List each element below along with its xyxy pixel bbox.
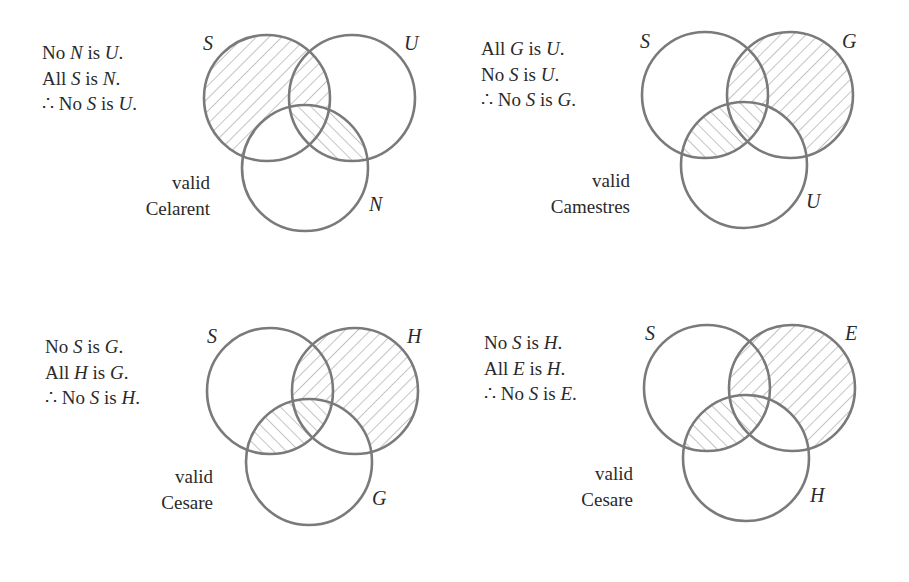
label-h: H: [406, 325, 423, 347]
label-s: S: [640, 30, 650, 52]
label-n: N: [368, 193, 384, 215]
label-e: E: [844, 322, 857, 344]
label-g: G: [372, 487, 387, 509]
label-s: S: [203, 32, 213, 54]
venn-diagrams: S U N S G U S H G: [0, 0, 909, 582]
venn-cesare-2: S E H: [644, 322, 857, 521]
label-h: H: [809, 484, 826, 506]
label-s: S: [207, 325, 217, 347]
label-u: U: [806, 190, 822, 212]
venn-camestres: S G U: [640, 30, 857, 228]
label-g: G: [842, 30, 857, 52]
label-s: S: [645, 322, 655, 344]
venn-cesare-1: S H G: [207, 325, 423, 525]
venn-celarent: S U N: [203, 32, 420, 231]
label-u: U: [404, 32, 420, 54]
